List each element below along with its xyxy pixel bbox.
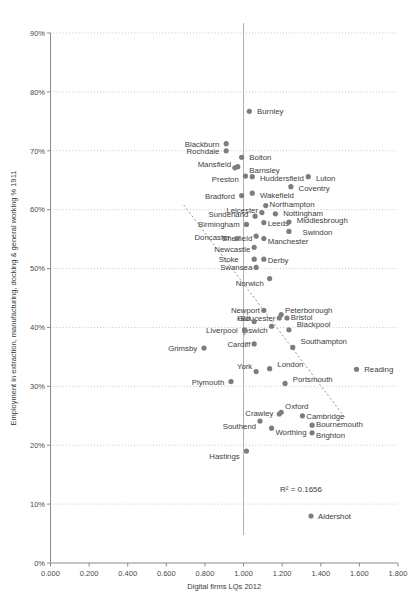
data-point[interactable] (300, 413, 305, 418)
y-axis-tick-label: 90% (30, 29, 45, 38)
data-point[interactable] (267, 366, 272, 371)
data-point-label: Bournemouth (316, 420, 363, 429)
data-point-label: Cardiff (227, 340, 251, 349)
data-point[interactable] (253, 214, 258, 219)
data-point-label: Doncaster (194, 233, 230, 242)
data-point[interactable] (224, 141, 229, 146)
scatter-chart: 0%10%20%30%40%50%60%70%80%90%0.0000.2000… (0, 0, 410, 613)
x-axis-tick-label: 0.000 (41, 569, 60, 578)
data-point[interactable] (254, 369, 259, 374)
y-axis-tick-label: 50% (30, 264, 45, 273)
data-point[interactable] (242, 327, 247, 332)
data-point-label: Grimsby (168, 344, 197, 353)
data-point[interactable] (259, 210, 264, 215)
data-point[interactable] (273, 211, 278, 216)
data-point[interactable] (244, 449, 249, 454)
data-point[interactable] (269, 426, 274, 431)
y-axis-tick-label: 40% (30, 323, 45, 332)
r-squared-annotation: R² = 0.1656 (280, 485, 323, 494)
data-point[interactable] (243, 174, 248, 179)
data-point[interactable] (239, 193, 244, 198)
y-axis-title: Employment in extraction, manufacturing,… (9, 171, 18, 426)
data-point[interactable] (252, 319, 257, 324)
data-point-label: Preston (212, 175, 239, 184)
data-point-label: Norwich (236, 279, 264, 288)
data-point[interactable] (252, 245, 257, 250)
data-point-label: Worthing (275, 428, 306, 437)
data-point[interactable] (267, 276, 272, 281)
x-axis-tick-label: 0.800 (196, 569, 215, 578)
data-point[interactable] (244, 222, 249, 227)
data-point[interactable] (234, 236, 239, 241)
data-point-label: Luton (316, 174, 336, 183)
data-point[interactable] (261, 220, 266, 225)
data-point[interactable] (269, 324, 274, 329)
data-point[interactable] (250, 174, 255, 179)
y-axis-tick-label: 0% (34, 559, 45, 568)
data-point-label: Plymouth (192, 378, 225, 387)
data-point-label: Portsmouth (293, 375, 333, 384)
data-point-label: Mansfield (198, 160, 231, 169)
data-point[interactable] (201, 345, 206, 350)
data-point-label: Middlesbrough (297, 216, 348, 225)
data-point[interactable] (309, 423, 314, 428)
data-point[interactable] (284, 315, 289, 320)
data-point-label: Hull (237, 314, 251, 323)
x-axis-tick-label: 0.400 (118, 569, 137, 578)
data-point[interactable] (239, 155, 244, 160)
data-point-label: Liverpool (206, 326, 238, 335)
data-point-label: Blackpool (297, 320, 331, 329)
data-point-label: Birmingham (198, 220, 240, 229)
chart-svg: 0%10%20%30%40%50%60%70%80%90%0.0000.2000… (0, 0, 410, 613)
data-point-label: Crawley (245, 409, 273, 418)
y-axis-tick-label: 10% (30, 500, 45, 509)
data-point[interactable] (277, 315, 282, 320)
data-point-label: Bolton (249, 153, 271, 162)
data-point[interactable] (282, 381, 287, 386)
x-axis-tick-label: 0.600 (157, 569, 176, 578)
data-point-label: Southend (223, 422, 256, 431)
data-point[interactable] (247, 109, 252, 114)
data-point-label: Sunderland (208, 210, 248, 219)
data-point[interactable] (354, 367, 359, 372)
x-axis-tick-label: 0.200 (80, 569, 99, 578)
data-point-label: Swindon (302, 228, 332, 237)
data-point[interactable] (261, 257, 266, 262)
data-point[interactable] (254, 234, 259, 239)
data-point-label: Hastings (209, 452, 239, 461)
y-axis-tick-label: 60% (30, 205, 45, 214)
data-point[interactable] (263, 203, 268, 208)
data-point[interactable] (252, 257, 257, 262)
x-axis-tick-label: 1.400 (311, 569, 330, 578)
data-point-label: Newcastle (214, 245, 250, 254)
x-axis-tick-label: 1.000 (234, 569, 253, 578)
data-point[interactable] (309, 430, 314, 435)
data-point-label: Bradford (205, 192, 235, 201)
data-point[interactable] (254, 265, 259, 270)
data-point[interactable] (286, 327, 291, 332)
data-point-label: Rochdale (186, 147, 219, 156)
data-point-label: London (277, 360, 303, 369)
data-point-label: Coventry (299, 184, 330, 193)
data-point[interactable] (252, 341, 257, 346)
data-point[interactable] (250, 191, 255, 196)
data-point[interactable] (306, 174, 311, 179)
data-point[interactable] (261, 308, 266, 313)
data-point-label: Swansea (220, 263, 253, 272)
data-point[interactable] (224, 148, 229, 153)
data-point[interactable] (261, 236, 266, 241)
data-point[interactable] (257, 418, 262, 423)
data-point[interactable] (288, 184, 293, 189)
data-point-aldershot[interactable] (308, 513, 313, 518)
data-point[interactable] (232, 165, 237, 170)
data-point-label: Burnley (257, 107, 284, 116)
data-point[interactable] (290, 345, 295, 350)
data-point[interactable] (286, 219, 291, 224)
data-point-label: Oxford (285, 402, 308, 411)
data-point-label: Reading (364, 365, 393, 374)
data-point[interactable] (286, 229, 291, 234)
data-point[interactable] (228, 379, 233, 384)
data-point-label: Brighton (316, 431, 345, 440)
x-axis-title: Digital firms LQs 2012 (187, 582, 261, 591)
data-point[interactable] (277, 411, 282, 416)
